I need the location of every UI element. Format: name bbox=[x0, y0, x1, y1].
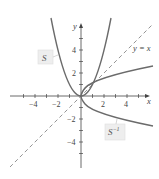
x-tick-label: 2 bbox=[101, 100, 105, 109]
label-identity-line: y = x bbox=[132, 43, 151, 53]
x-axis-label: x bbox=[146, 96, 151, 106]
label-s-inverse-exp: −1 bbox=[113, 126, 120, 132]
x-tick-label: −4 bbox=[29, 100, 38, 109]
x-tick-label: −2 bbox=[52, 100, 61, 109]
y-tick-label: 4 bbox=[72, 46, 76, 55]
callout-s-inverse-pointer bbox=[116, 119, 117, 124]
y-axis-arrow-icon bbox=[79, 23, 83, 28]
label-s: S bbox=[42, 53, 47, 63]
y-tick-label: −2 bbox=[67, 115, 76, 124]
y-tick-label: −4 bbox=[67, 138, 76, 147]
x-tick-label: 4 bbox=[124, 100, 128, 109]
y-axis-label: y bbox=[72, 21, 77, 31]
graph-figure: −4 −2 2 4 x 4 2 −2 −4 y S S−1 y = x bbox=[0, 0, 159, 179]
callout-s-pointer bbox=[53, 55, 58, 57]
y-tick-label: 2 bbox=[72, 69, 76, 78]
